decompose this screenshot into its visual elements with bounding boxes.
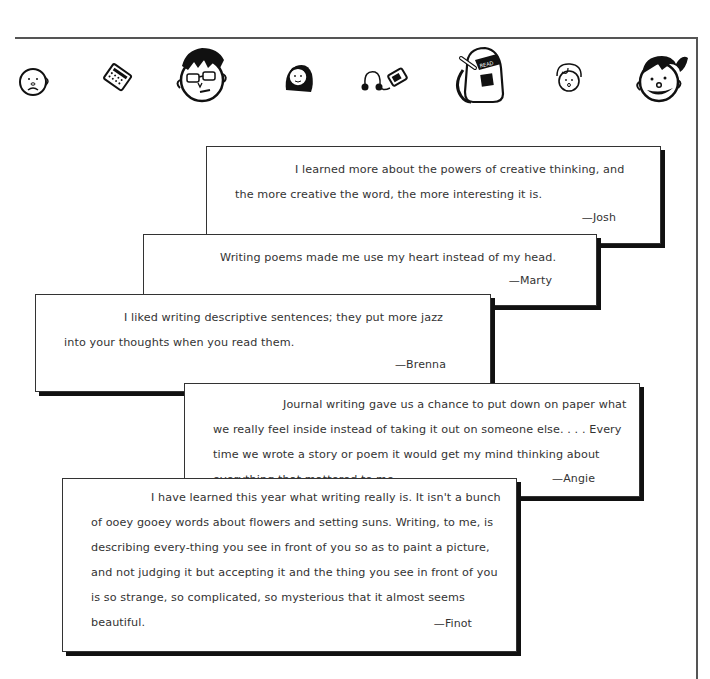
small-kid-face-icon: [552, 60, 586, 96]
quote-card-finot: I have learned this year what writing re…: [62, 478, 517, 652]
smiling-girl-ponytail-face-icon: [635, 48, 691, 106]
quote-author: —Finot: [434, 617, 472, 630]
quote-text: I learned more about the powers of creat…: [235, 157, 635, 207]
quote-author: —Brenna: [395, 358, 446, 371]
right-rule: [696, 37, 698, 679]
quote-card-josh: I learned more about the powers of creat…: [206, 146, 661, 244]
quote-text: I liked writing descriptive sentences; t…: [64, 305, 459, 355]
quote-text: Writing poems made me use my heart inste…: [220, 245, 580, 270]
calculator-icon: [100, 63, 134, 93]
quote-author: —Angie: [552, 472, 595, 485]
backpack-read-icon: READ: [453, 44, 509, 104]
boy-with-glasses-face-icon: [172, 44, 234, 106]
quote-text: I have learned this year what writing re…: [91, 485, 501, 635]
bald-kid-face-icon: [16, 65, 52, 99]
headphones-music-player-icon: [360, 66, 412, 96]
top-rule: [15, 37, 698, 39]
girl-long-hair-face-icon: [280, 60, 316, 94]
quote-card-brenna: I liked writing descriptive sentences; t…: [35, 294, 491, 392]
quote-author: —Josh: [582, 211, 616, 224]
quote-author: —Marty: [509, 274, 552, 287]
